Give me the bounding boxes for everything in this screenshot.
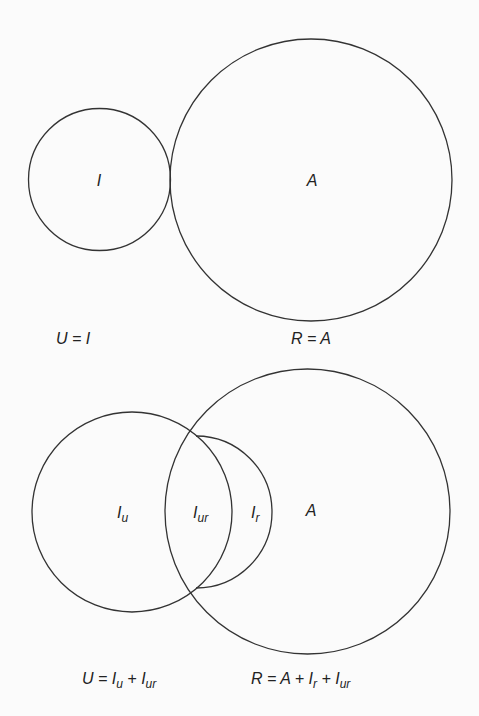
region-ir-label: Ir	[251, 504, 260, 525]
label-a-top: A	[306, 172, 318, 189]
venn-diagram: I A U = I R = A Iu Iur Ir A U = Iu + Iur…	[0, 0, 479, 716]
region-iu-label: Iu	[117, 504, 128, 525]
formula-r-bottom: R = A + Ir + Iur	[251, 670, 351, 691]
region-a-label: A	[305, 502, 317, 519]
region-iur-label: Iur	[193, 504, 209, 525]
overlapping-panel: Iu Iur Ir A U = Iu + Iur R = A + Ir + Iu…	[32, 369, 450, 691]
formula-r-top: R = A	[291, 330, 331, 347]
formula-u-bottom: U = Iu + Iur	[82, 670, 157, 691]
formula-u-top: U = I	[56, 330, 91, 347]
disjoint-panel: I A U = I R = A	[29, 39, 453, 347]
label-i: I	[97, 172, 102, 189]
